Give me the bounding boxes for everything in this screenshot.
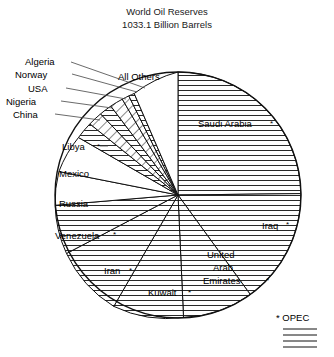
legend-opec-swatch: [283, 329, 317, 347]
asterisk-iraq: *: [286, 220, 289, 229]
asterisk-libya: *: [97, 142, 100, 151]
label-kuwait: Kuwait: [148, 287, 177, 298]
leader-china: [55, 114, 100, 120]
leader-usa: [66, 88, 126, 99]
chart-title-line2: 1033.1 Billion Barrels: [122, 19, 212, 30]
chart-page: World Oil Reserves 1033.1 Billion Barrel…: [0, 0, 334, 357]
label-saudi-arabia: Saudi Arabia: [198, 118, 253, 129]
legend-opec-label: * OPEC: [276, 312, 309, 323]
label-usa: USA: [28, 83, 48, 94]
label-iran: Iran: [104, 265, 120, 276]
label-norway: Norway: [15, 69, 47, 80]
label-russia: Russia: [59, 198, 89, 209]
wedge-saudi-arabia[interactable]: [178, 72, 301, 195]
asterisk-kuwait: *: [188, 288, 191, 297]
label-iraq: Iraq: [262, 220, 278, 231]
label-nigeria: Nigeria: [6, 96, 37, 107]
label-algeria: Algeria: [25, 56, 55, 67]
label-arab: Arab: [213, 262, 233, 273]
label-united: United: [207, 249, 234, 260]
pie-chart: World Oil Reserves 1033.1 Billion Barrel…: [0, 0, 334, 357]
label-mexico: Mexico: [59, 168, 89, 179]
chart-title-line1: World Oil Reserves: [126, 6, 208, 17]
leader-nigeria: [61, 101, 112, 108]
asterisk-iran: *: [129, 266, 132, 275]
label-libya: Libya: [62, 141, 85, 152]
asterisk-venezuela: *: [113, 230, 116, 239]
label-venezuela: Venezuela: [55, 230, 100, 241]
asterisk-saudi-arabia: *: [270, 119, 273, 128]
label-emirates: Emirates: [203, 275, 241, 286]
asterisk-united-arab-emirates: *: [266, 276, 269, 285]
label-china: China: [13, 109, 39, 120]
label-all-others: All Others: [118, 71, 160, 82]
